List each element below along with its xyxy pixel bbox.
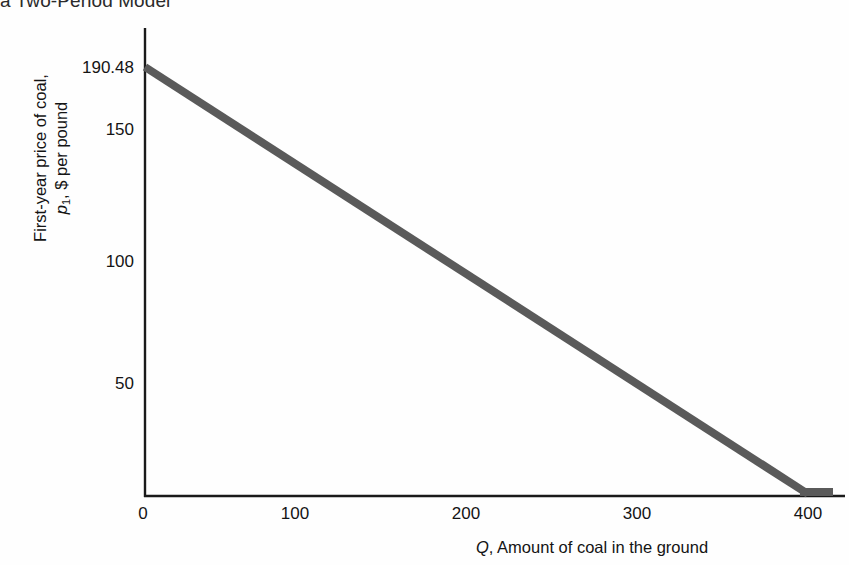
chart-figure: a Two-Period Model First-year price of c… (0, 0, 849, 565)
plot-area (0, 0, 849, 565)
demand-curve (145, 67, 808, 494)
